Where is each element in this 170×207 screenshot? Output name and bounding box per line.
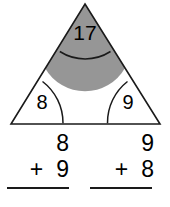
- apex-angle-label: 17: [73, 21, 96, 44]
- bottom-right-angle-label: 9: [122, 91, 133, 113]
- math-problems-area: 8 + 9 9 + 8: [0, 130, 170, 207]
- problem-left-bottom-row: + 9: [0, 156, 85, 184]
- problem-right-top-addend: 9: [85, 130, 170, 156]
- addition-problem-left: 8 + 9: [0, 130, 85, 207]
- problem-right-bottom-row: + 8: [85, 156, 170, 184]
- problem-right-bottom-addend: 8: [141, 156, 154, 182]
- problem-right-answer-rule: [90, 187, 152, 189]
- bottom-left-angle-label: 8: [36, 91, 47, 113]
- problem-left-answer-rule: [7, 187, 69, 189]
- addition-problem-right: 9 + 8: [85, 130, 170, 207]
- problem-left-bottom-addend: 9: [56, 156, 69, 182]
- problem-right-operator: +: [115, 156, 128, 182]
- fact-family-triangle: 17 8 9: [0, 0, 170, 130]
- problem-left-operator: +: [30, 156, 43, 182]
- problem-left-top-addend: 8: [0, 130, 85, 156]
- worksheet-page: 17 8 9 8 + 9 9 + 8: [0, 0, 170, 207]
